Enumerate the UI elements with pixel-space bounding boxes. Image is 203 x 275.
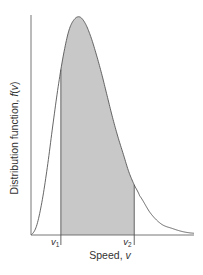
v2-label: v2 (123, 236, 131, 248)
v1-label: v1 (51, 236, 59, 248)
x-axis-label: Speed, v (89, 249, 130, 261)
speed-distribution-chart (0, 0, 203, 275)
shaded-area-v1-v2 (61, 17, 134, 235)
y-axis-label: Distribution function, f(v) (8, 81, 20, 194)
